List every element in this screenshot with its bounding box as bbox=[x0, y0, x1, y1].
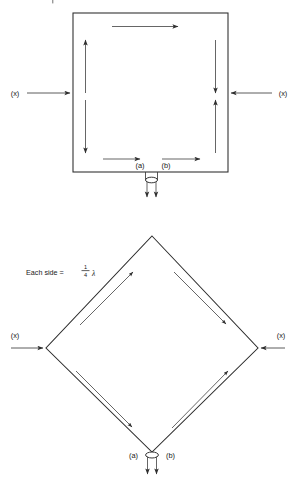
canvas-background bbox=[0, 0, 296, 483]
diamond-left-source-label: (x) bbox=[11, 331, 20, 340]
diamond-feed-terminal-b-label: (b) bbox=[166, 451, 175, 460]
side-wavelength-symbol: λ bbox=[91, 269, 96, 278]
square-feed-terminal-b-label: (b) bbox=[161, 161, 170, 170]
scan-artifact-mark bbox=[52, 0, 53, 3]
side-length-prefix-label: Each side = bbox=[26, 268, 64, 277]
diamond-right-source-label: (x) bbox=[277, 331, 286, 340]
square-feed-terminal-a-label: (a) bbox=[135, 161, 144, 170]
side-fraction-denominator: 4 bbox=[84, 272, 87, 278]
side-fraction-numerator: 1 bbox=[84, 264, 87, 270]
square-left-source-label: (x) bbox=[11, 89, 20, 98]
figure-root: (a) (b) (x) (x) (a) bbox=[0, 0, 296, 483]
diamond-feed-terminal-a-label: (a) bbox=[129, 451, 138, 460]
square-right-source-label: (x) bbox=[279, 89, 288, 98]
antenna-diagram-svg: (a) (b) (x) (x) (a) bbox=[0, 0, 296, 483]
